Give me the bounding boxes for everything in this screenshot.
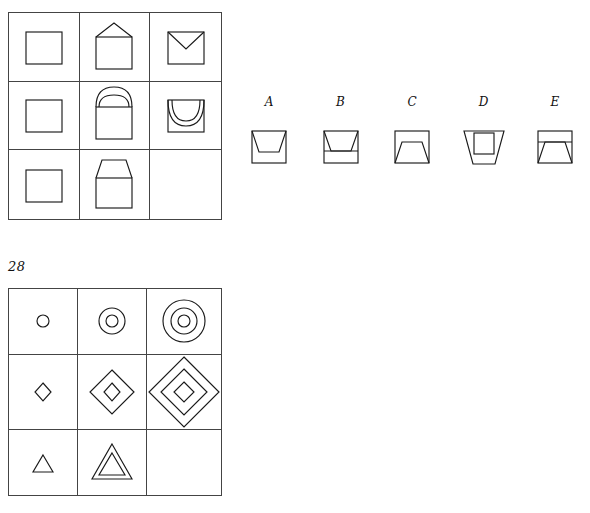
circle-nested-three-icon [156, 293, 212, 349]
option-c-label: C [407, 96, 416, 108]
matrix1-cell-r1c3[interactable] [150, 13, 221, 82]
option-c-art [391, 115, 433, 167]
option-d-art [461, 115, 507, 167]
matrix1-cell-r2c1[interactable] [9, 82, 80, 151]
matrix2-cell-r1c3[interactable] [147, 289, 221, 355]
option-a-art [248, 115, 290, 167]
option-e-art [534, 115, 576, 167]
matrix1-cell-r3c1[interactable] [9, 150, 80, 219]
circle-nested-two-icon [84, 293, 140, 349]
matrix-grid-1 [8, 12, 222, 220]
matrix2-cell-r3c2[interactable] [78, 430, 147, 496]
matrix2-cell-r1c2[interactable] [78, 289, 147, 355]
matrix1-cell-r2c2[interactable] [80, 82, 151, 151]
square-with-inner-double-arc-icon [163, 92, 209, 138]
diamond-single-icon [13, 362, 73, 422]
matrix2-cell-r3c1[interactable] [9, 430, 78, 496]
matrix1-cell-r1c1[interactable] [9, 13, 80, 82]
matrix1-cell-r3c3[interactable] [150, 150, 221, 219]
option-d-label: D [479, 96, 489, 108]
test-page: A B C [0, 0, 590, 513]
square-icon [21, 92, 67, 138]
square-with-inner-v-icon [163, 24, 209, 70]
matrix2-cell-r2c3[interactable] [147, 355, 221, 430]
option-e-label: E [551, 96, 560, 108]
matrix1-cell-r1c2[interactable] [80, 13, 151, 82]
circle-single-icon [15, 293, 71, 349]
square-icon [21, 162, 67, 208]
puzzle-2-number: 28 [8, 259, 26, 274]
square-with-inner-upright-trapezoid-bottom-icon [391, 127, 433, 167]
matrix1-cell-r2c3[interactable] [150, 82, 221, 151]
square-icon [21, 24, 67, 70]
inverted-trapezoid-with-inner-square-icon [461, 127, 507, 167]
diamond-nested-three-icon [147, 355, 221, 429]
answer-options-1: A B C [238, 96, 586, 167]
square-with-double-arch-roof-icon [89, 84, 139, 146]
option-e[interactable]: E [524, 96, 586, 167]
matrix1-cell-r3c2[interactable] [80, 150, 151, 219]
matrix-grid-2 [8, 288, 222, 496]
square-with-inner-inverted-trapezoid-and-line-icon [320, 127, 362, 167]
triangle-single-icon [15, 434, 71, 490]
option-a[interactable]: A [238, 96, 300, 167]
triangle-nested-two-icon [82, 434, 142, 490]
square-with-inner-inverted-trapezoid-top-icon [248, 127, 290, 167]
matrix2-cell-r2c2[interactable] [78, 355, 147, 430]
square-with-line-and-upright-trapezoid-icon [534, 127, 576, 167]
option-b-art [320, 115, 362, 167]
diamond-nested-two-icon [82, 362, 142, 422]
option-c[interactable]: C [381, 96, 443, 167]
option-a-label: A [265, 96, 274, 108]
square-with-triangle-roof-icon [89, 18, 139, 76]
matrix2-cell-r1c1[interactable] [9, 289, 78, 355]
matrix2-cell-r3c3[interactable] [147, 430, 221, 496]
square-with-trapezoid-roof-icon [89, 156, 139, 214]
matrix2-cell-r2c1[interactable] [9, 355, 78, 430]
option-b[interactable]: B [310, 96, 372, 167]
option-b-label: B [336, 96, 345, 108]
option-d[interactable]: D [453, 96, 515, 167]
